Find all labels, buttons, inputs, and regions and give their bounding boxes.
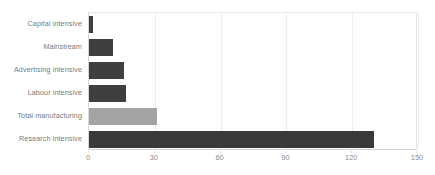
value-tick-label: 60 [215, 153, 223, 162]
plot-area [88, 12, 417, 150]
bar [89, 131, 374, 148]
gridline [418, 13, 419, 149]
category-label: Mainstream [43, 35, 82, 58]
bar-series [89, 13, 416, 149]
bar [89, 39, 113, 56]
bar [89, 85, 126, 102]
bar [89, 108, 157, 125]
value-tick-label: 120 [345, 153, 357, 162]
category-label: Capital intensive [28, 12, 82, 35]
value-tick-label: 150 [411, 153, 423, 162]
bar [89, 62, 124, 79]
bar-chart: Capital intensiveMainstreamAdvertising i… [0, 0, 435, 175]
bar [89, 16, 93, 33]
category-label: Research intensive [19, 127, 82, 150]
value-tick-label: 0 [86, 153, 90, 162]
value-axis: 0306090120150 [88, 151, 417, 173]
value-tick-label: 90 [281, 153, 289, 162]
category-label: Total manufacturing [17, 104, 82, 127]
category-label: Advertising intensive [14, 58, 82, 81]
category-label: Labour intensive [28, 81, 82, 104]
value-tick-label: 30 [150, 153, 158, 162]
category-axis-labels: Capital intensiveMainstreamAdvertising i… [0, 12, 85, 150]
